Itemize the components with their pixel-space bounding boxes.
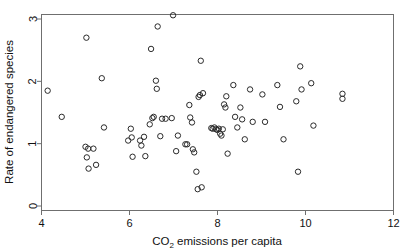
x-tick-label: 6 xyxy=(126,217,132,229)
chart-background xyxy=(0,0,413,252)
y-tick-label: 2 xyxy=(27,78,39,84)
chart-canvas: 4681012 0123 CO2 emissions per capita Ra… xyxy=(0,0,413,252)
x-tick-label: 10 xyxy=(299,217,311,229)
x-tick-label: 4 xyxy=(38,217,44,229)
y-tick-label: 0 xyxy=(27,203,39,209)
scatter-plot-figure: 4681012 0123 CO2 emissions per capita Ra… xyxy=(0,0,413,252)
x-tick-label: 12 xyxy=(387,217,399,229)
y-axis-label: Rate of endangered species xyxy=(3,40,15,184)
x-tick-label: 8 xyxy=(214,217,220,229)
y-tick-label: 1 xyxy=(27,141,39,147)
y-tick-label: 3 xyxy=(27,16,39,22)
